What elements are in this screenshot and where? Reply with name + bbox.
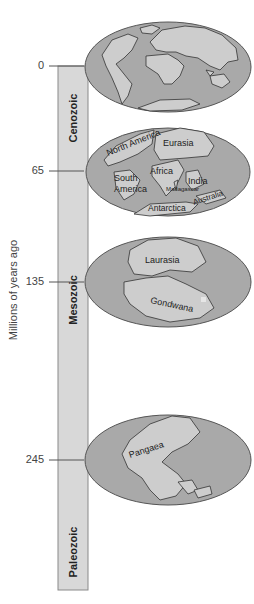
era-mesozoic-text: Mesozoic [67, 275, 79, 325]
label-laurasia: Laurasia [145, 255, 180, 265]
globe-map-135mya: Laurasia Gondwana [85, 237, 251, 327]
era-paleozoic-text: Paleozoic [67, 527, 79, 578]
label-south-america-line2: America [114, 184, 147, 194]
label-india: India [188, 176, 208, 186]
globe-map-present [85, 22, 251, 112]
label-madagascar: Madagascar [166, 186, 199, 192]
label-south-america-line1: South [114, 173, 138, 183]
diagram-graphics: North America Eurasia Africa South Ameri… [0, 0, 254, 604]
continental-drift-diagram: Millions of years ago 0 65 135 245 [0, 0, 254, 604]
label-eurasia: Eurasia [163, 138, 194, 148]
globe-map-65mya: North America Eurasia Africa South Ameri… [86, 127, 250, 216]
era-cenozoic-text: Cenozoic [67, 94, 79, 143]
globe-map-245mya: Pangaea [85, 415, 251, 505]
label-africa: Africa [150, 166, 173, 176]
timeline-bar [58, 66, 88, 590]
label-antarctica: Antarctica [148, 203, 186, 213]
